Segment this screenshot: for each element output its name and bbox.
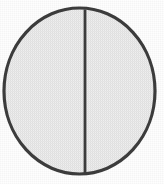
figure-root	[0, 0, 164, 184]
drawing-group	[4, 8, 155, 174]
outer-circle	[4, 8, 155, 174]
circle-diagram-canvas	[0, 0, 164, 184]
